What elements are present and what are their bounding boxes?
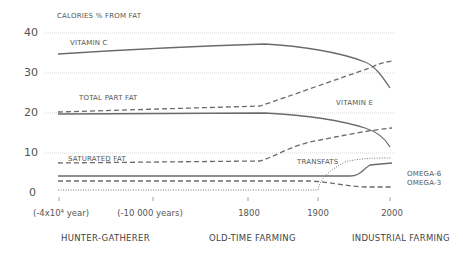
era-industrial-farming: INDUSTRIAL FARMING bbox=[352, 234, 450, 243]
label-vitamin-e: VITAMIN E bbox=[336, 100, 373, 107]
y-tick-10: 10 bbox=[24, 147, 38, 158]
label-omega-3: OMEGA-3 bbox=[407, 180, 441, 187]
y-tick-40: 40 bbox=[24, 27, 38, 38]
label-saturated-fat: SATURATED FAT bbox=[68, 156, 126, 163]
fat-calories-chart: CALORIES % FROM FAT 40 30 20 10 0 VITAMI… bbox=[0, 0, 463, 257]
label-vitamin-c: VITAMIN C bbox=[70, 40, 108, 47]
x-tick-10000: (-10 000 years) bbox=[117, 209, 183, 218]
x-tick-hunter: (-4x10⁴ year) bbox=[33, 209, 89, 218]
y-axis-title: CALORIES % FROM FAT bbox=[57, 13, 141, 20]
x-tick-marks bbox=[59, 197, 390, 201]
series-omega-6 bbox=[58, 163, 392, 176]
y-tick-30: 30 bbox=[24, 67, 38, 78]
label-total-part-fat: TOTAL PART FAT bbox=[79, 95, 138, 102]
era-hunter-gatherer: HUNTER-GATHERER bbox=[61, 234, 150, 243]
series-vitamin-e bbox=[58, 113, 390, 147]
x-tick-2000: 2000 bbox=[381, 209, 403, 218]
y-tick-20: 20 bbox=[24, 107, 38, 118]
label-omega-6: OMEGA-6 bbox=[407, 171, 441, 178]
series-vitamin-c bbox=[58, 44, 390, 88]
y-tick-0: 0 bbox=[29, 187, 36, 198]
series-omega-3 bbox=[58, 181, 392, 187]
x-tick-1800: 1800 bbox=[238, 209, 260, 218]
era-old-time-farming: OLD-TIME FARMING bbox=[209, 234, 296, 243]
x-tick-1900: 1900 bbox=[307, 209, 329, 218]
label-transfats: TRANSFATS bbox=[297, 159, 338, 166]
